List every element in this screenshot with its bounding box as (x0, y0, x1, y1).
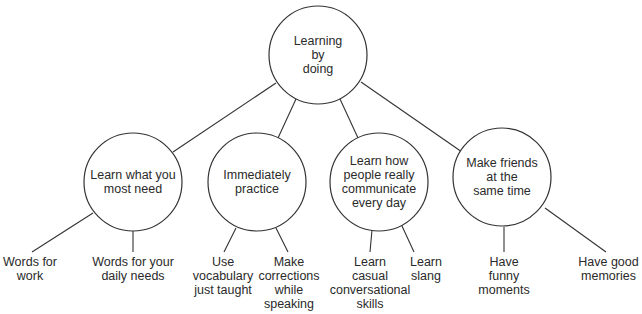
branch-node-label-3: Learn how people really communicate ever… (330, 133, 428, 231)
leaf-label-words-daily-needs: Words for your daily needs (83, 255, 183, 283)
branch-node-label-2: Immediately practice (208, 133, 306, 231)
connector-branch-3-leaf-1 (370, 230, 372, 252)
connector-branch-4-leaf-2 (545, 208, 606, 252)
leaf-label-make-corrections: Make corrections while speaking (256, 255, 322, 311)
connector-branch-2-leaf-1 (224, 228, 236, 252)
branch-node-label-4: Make friends at the same time (453, 128, 551, 226)
leaf-label-learn-slang: Learn slang (406, 255, 446, 283)
leaf-label-have-good-memories: Have good memories (575, 255, 642, 283)
leaf-label-words-for-work: Words for work (0, 255, 60, 283)
connector-branch-2-leaf-2 (276, 228, 288, 252)
root-node-label: Learning by doing (269, 6, 367, 104)
leaf-label-use-vocabulary: Use vocabulary just taught (190, 255, 256, 297)
leaf-label-have-funny-moments: Have funny moments (474, 255, 534, 297)
leaf-label-learn-casual: Learn casual conversational skills (325, 255, 415, 311)
branch-node-label-1: Learn what you most need (84, 133, 182, 231)
